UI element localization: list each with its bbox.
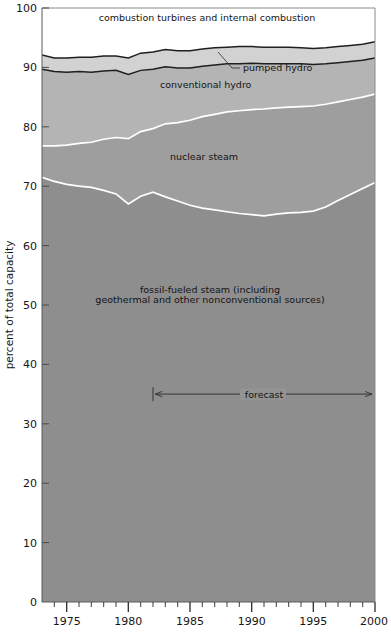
x-tick-label-2000: 2000 [360,615,388,628]
y-tick-label-20: 20 [23,477,37,490]
y-tick-label-100: 100 [16,2,37,15]
y-tick-label-60: 60 [23,240,37,253]
x-tick-label-1995: 1995 [299,615,327,628]
x-tick-label-1975: 1975 [53,615,81,628]
series-label-nuclear-steam: nuclear steam [170,151,238,162]
y-tick-label-70: 70 [23,180,37,193]
series-label-conventional-hydro: conventional hydro [160,79,252,90]
x-tick-label-1990: 1990 [238,615,266,628]
y-tick-label-10: 10 [23,537,37,550]
series-label-combustion: combustion turbines and internal combust… [99,12,316,23]
series-areas [42,42,375,602]
forecast-label: forecast [245,389,284,400]
series-label-fossil-line2: geothermal and other nonconventional sou… [95,294,324,305]
y-tick-label-30: 30 [23,418,37,431]
y-tick-label-40: 40 [23,358,37,371]
area-fossil-fueled-steam [42,177,375,602]
y-tick-label-0: 0 [30,596,37,609]
y-tick-label-90: 90 [23,61,37,74]
x-tick-label-1985: 1985 [176,615,204,628]
stacked-area-chart: forecast combustion turbines and interna… [0,0,391,634]
y-tick-label-50: 50 [23,299,37,312]
chart-container: forecast combustion turbines and interna… [0,0,391,634]
series-label-pumped-hydro: pumped hydro [243,62,313,73]
y-tick-label-80: 80 [23,121,37,134]
x-tick-label-1980: 1980 [114,615,142,628]
x-axis-minor-ticks [54,602,362,607]
y-axis-title: percent of total capacity [3,241,15,370]
